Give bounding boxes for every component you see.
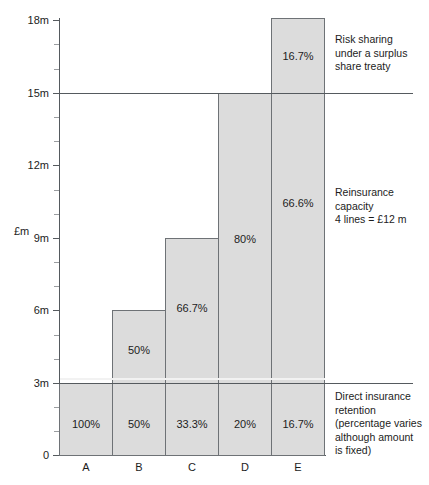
bar-E-retention-percent: 16.7% <box>271 419 325 430</box>
x-category-label-C: C <box>165 462 219 473</box>
annotation-risk-sharing-line-2: under a surplus <box>335 47 429 61</box>
retention-line <box>59 383 413 384</box>
bar-E-reinsurance-percent: 66.6% <box>271 198 325 209</box>
bar-D <box>218 93 272 456</box>
annotation-reinsurance-capacity: Reinsurance capacity 4 lines = £12 m <box>335 186 429 227</box>
bar-C-reinsurance-percent: 66.7% <box>165 303 219 314</box>
y-tick-label-3m: 3m <box>15 378 49 389</box>
x-category-label-D: D <box>218 462 272 473</box>
y-tick-minor-8 <box>54 262 59 263</box>
y-tick-label-9m: 9m <box>15 233 49 244</box>
y-tick-minor-14 <box>54 117 59 118</box>
y-tick-label-15m: 15m <box>15 88 49 99</box>
annotation-direct-insurance-retention: Direct insurance retention (percentage v… <box>335 390 429 458</box>
y-tick-9m <box>53 238 59 239</box>
annotation-direct-insurance-retention-line-4: although amount <box>335 431 429 445</box>
bar-B-reinsurance-percent: 50% <box>112 345 166 356</box>
reinsurance-ceiling-line <box>59 93 413 94</box>
bar-E <box>271 18 325 456</box>
y-tick-18m <box>53 20 59 21</box>
bar-C-retention-percent: 33.3% <box>165 419 219 430</box>
y-tick-label-0: 0 <box>15 450 49 461</box>
annotation-risk-sharing-line-1: Risk sharing <box>335 33 429 47</box>
y-tick-minor-10 <box>54 214 59 215</box>
annotation-reinsurance-capacity-line-3: 4 lines = £12 m <box>335 213 429 227</box>
annotation-direct-insurance-retention-line-5: is fixed) <box>335 444 429 458</box>
y-tick-minor-5 <box>54 335 59 336</box>
bar-E-surplus-percent: 16.7% <box>271 51 325 62</box>
bar-B-retention-percent: 50% <box>112 419 166 430</box>
annotation-risk-sharing-line-3: share treaty <box>335 60 429 74</box>
y-tick-12m <box>53 165 59 166</box>
y-tick-label-6m: 6m <box>15 305 49 316</box>
annotation-direct-insurance-retention-line-1: Direct insurance <box>335 390 429 404</box>
retention-band-highlight <box>60 378 325 380</box>
bar-D-reinsurance-percent: 80% <box>218 234 272 245</box>
x-category-label-A: A <box>59 462 113 473</box>
y-tick-minor-16 <box>54 69 59 70</box>
surplus-share-treaty-bar-chart: £m 18m 15m 12m 9m 6m 3m 0 100% 50% 33.3%… <box>0 0 429 485</box>
bar-A-retention-percent: 100% <box>59 419 113 430</box>
y-tick-label-18m: 18m <box>15 15 49 26</box>
y-tick-label-12m: 12m <box>15 160 49 171</box>
bar-D-retention-percent: 20% <box>218 419 272 430</box>
y-tick-minor-13 <box>54 141 59 142</box>
y-tick-6m <box>53 310 59 311</box>
x-category-label-B: B <box>112 462 166 473</box>
y-tick-minor-11 <box>54 190 59 191</box>
x-category-label-E: E <box>271 462 325 473</box>
annotation-reinsurance-capacity-line-2: capacity <box>335 200 429 214</box>
y-tick-minor-4 <box>54 359 59 360</box>
y-tick-minor-7 <box>54 286 59 287</box>
annotation-reinsurance-capacity-line-1: Reinsurance <box>335 186 429 200</box>
y-tick-minor-17 <box>54 44 59 45</box>
annotation-direct-insurance-retention-line-2: retention <box>335 404 429 418</box>
annotation-risk-sharing: Risk sharing under a surplus share treat… <box>335 33 429 74</box>
annotation-direct-insurance-retention-line-3: (percentage varies <box>335 417 429 431</box>
